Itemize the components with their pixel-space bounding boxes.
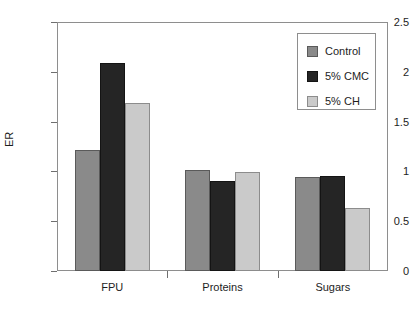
- legend-swatch-icon: [307, 46, 318, 57]
- bar: [100, 63, 125, 271]
- bar: [75, 150, 100, 271]
- legend-item: 5% CH: [307, 95, 360, 107]
- y-axis-label: ER: [4, 132, 15, 147]
- x-axis-tick-mark: [278, 271, 279, 278]
- y-axis-tick-mark: [51, 22, 57, 23]
- x-axis-category-label: Proteins: [202, 282, 242, 293]
- x-axis-category-label: Sugars: [315, 282, 350, 293]
- legend-swatch-icon: [307, 96, 318, 107]
- y-axis-tick-mark: [51, 122, 57, 123]
- legend-label: 5% CH: [325, 96, 360, 107]
- y-axis-tick-label: 0: [403, 266, 409, 277]
- bar-chart-figure: 00.511.522.5 ER FPUProteinsSugars Contro…: [0, 0, 418, 312]
- legend-label: 5% CMC: [325, 71, 369, 82]
- legend-item: 5% CMC: [307, 70, 369, 82]
- x-axis-category-label: FPU: [101, 282, 123, 293]
- y-axis-tick-mark: [51, 72, 57, 73]
- y-axis-tick-label: 2.5: [394, 17, 409, 28]
- y-axis-tick-mark: [51, 271, 57, 272]
- legend-item: Control: [307, 45, 360, 57]
- y-axis-tick-label: 1.5: [394, 116, 409, 127]
- legend: Control5% CMC5% CH: [297, 33, 376, 110]
- bar: [235, 172, 260, 271]
- y-axis-tick-label: 1: [403, 166, 409, 177]
- bar: [295, 177, 320, 271]
- bar: [185, 170, 210, 271]
- legend-label: Control: [325, 46, 360, 57]
- bar: [125, 103, 150, 271]
- y-axis-tick-mark: [51, 221, 57, 222]
- bar: [345, 208, 370, 271]
- bar: [210, 181, 235, 271]
- y-axis-tick-mark: [51, 171, 57, 172]
- y-axis-tick-label: 0.5: [394, 216, 409, 227]
- y-axis-tick-label: 2: [403, 66, 409, 77]
- x-axis-tick-mark: [167, 271, 168, 278]
- legend-swatch-icon: [307, 71, 318, 82]
- bar: [320, 176, 345, 271]
